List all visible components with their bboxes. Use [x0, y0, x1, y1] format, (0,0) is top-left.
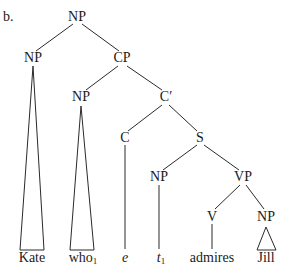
terminal-admires: admires [190, 251, 234, 265]
terminal-who: who1 [69, 251, 98, 268]
terminal-e: e [122, 251, 128, 265]
branch-s-vp [204, 145, 239, 170]
branch-root-cp [82, 24, 119, 51]
syntax-tree-diagram: b. NP NP CP NP C′ C S NP VP V NP Kate wh… [0, 0, 284, 270]
terminal-who-word: who [69, 250, 93, 265]
terminal-trace-index: 1 [161, 256, 166, 266]
node-np-who: NP [72, 90, 90, 104]
branch-cp-np-who [86, 66, 118, 90]
terminal-who-index: 1 [93, 256, 98, 266]
node-vp: VP [234, 170, 252, 184]
node-v: V [207, 210, 217, 224]
node-np-kate: NP [24, 51, 42, 65]
node-s: S [196, 131, 204, 145]
terminal-jill: Jill [257, 251, 274, 265]
branch-vp-v [215, 185, 240, 209]
triangle-np-jill [257, 227, 276, 250]
branch-root-np-kate [36, 24, 73, 51]
node-c-bar: C′ [160, 90, 172, 104]
branch-cbar-c [128, 105, 162, 131]
example-label: b. [3, 10, 14, 24]
branch-s-np [163, 145, 197, 170]
node-cp: CP [113, 51, 130, 65]
triangle-np-kate [20, 66, 44, 250]
branch-cp-cbar [127, 66, 162, 90]
branch-vp-np [246, 185, 264, 209]
terminal-trace: t1 [157, 251, 165, 268]
node-np-jill: NP [257, 210, 275, 224]
terminal-kate: Kate [19, 251, 45, 265]
tree-branches [0, 0, 284, 270]
triangle-np-who [70, 106, 94, 250]
branch-cbar-s [169, 105, 197, 131]
node-root-np: NP [68, 10, 86, 24]
node-np-trace: NP [150, 170, 168, 184]
node-c: C [120, 131, 129, 145]
